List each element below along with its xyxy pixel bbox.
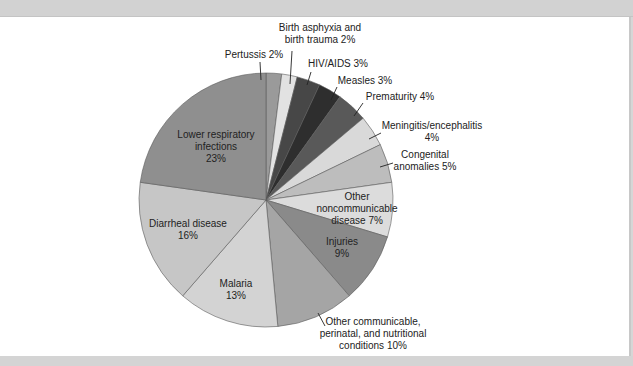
slice-label: Congenitalanomalies 5% — [394, 149, 457, 172]
slice-label: Meningitis/encephalitis4% — [382, 120, 483, 143]
leader-line — [318, 313, 325, 326]
slice-label: HIV/AIDS 3% — [308, 58, 368, 69]
pie-chart: Pertussis 2%Birth asphyxia andbirth trau… — [0, 0, 633, 366]
slice-label: Prematurity 4% — [366, 91, 434, 102]
slice-label: Birth asphyxia andbirth trauma 2% — [279, 22, 361, 45]
slice-label: Other communicable,perinatal, and nutrit… — [320, 316, 427, 351]
slice-label: Measles 3% — [338, 75, 393, 86]
slice-label: Pertussis 2% — [225, 49, 283, 60]
